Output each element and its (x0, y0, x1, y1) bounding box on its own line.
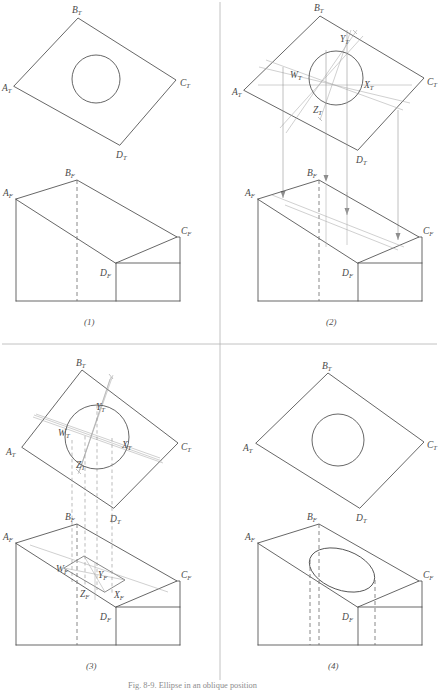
label-C-front: CF (423, 570, 434, 581)
panel-2-front-view: AF BF CF DF (244, 168, 434, 301)
label-C-top: CT (427, 440, 438, 451)
figure-plate: AT BT CT DT AF BF CF DF (1) (0, 0, 439, 691)
panel-3: AT BT CT DT WT XT YT ZT (2, 358, 192, 671)
label-C-top: CT (427, 77, 438, 88)
panel-3-top-view: AT BT CT DT WT XT YT ZT (5, 358, 192, 525)
panel-2-projectors (281, 30, 401, 240)
label-A-top: AT (231, 87, 243, 98)
front-view-right-face (419, 237, 422, 301)
panel-2-top-view: AT BT CT DT WT XT YT ZT (231, 3, 438, 166)
label-B-front: BF (65, 512, 76, 523)
front-view-top-face (16, 524, 177, 607)
panel-2: AT BT CT DT WT XT YT ZT (231, 3, 438, 327)
label-W-top: WT (290, 70, 303, 81)
front-view-right-face (177, 237, 180, 301)
top-view-construction (258, 30, 412, 133)
label-B-top: BT (76, 358, 87, 369)
quadrant-dividers (2, 2, 437, 680)
label-B-front: BF (65, 168, 76, 179)
top-view-outline (244, 16, 424, 150)
panel-4: AT BT CT DT AF BF CF DF (4) (242, 361, 438, 671)
label-D-front: DF (99, 268, 112, 279)
label-A-top: AT (1, 83, 13, 94)
top-view-outline (256, 373, 424, 508)
panel-4-front-view: AF BF CF DF (244, 512, 434, 645)
label-X-top: XT (363, 80, 375, 91)
front-view-top-face (258, 524, 419, 607)
panel-1-step-number: (1) (84, 317, 95, 327)
label-D-front: DF (341, 268, 354, 279)
label-Y-top: YT (340, 34, 350, 45)
label-D-front: DF (341, 612, 354, 623)
label-C-front: CF (423, 226, 434, 237)
label-B-top: BT (72, 5, 83, 16)
label-A-front: AF (2, 532, 14, 543)
panel-3-step-number: (3) (86, 661, 97, 671)
label-A-front: AF (2, 188, 14, 199)
top-view-circle (309, 51, 363, 105)
label-C-front: CF (181, 570, 192, 581)
label-D-top: DT (115, 150, 128, 161)
label-Y-top: YT (96, 402, 106, 413)
label-A-front: AF (244, 188, 256, 199)
label-D-top: DT (109, 514, 122, 525)
label-W-front: WF (56, 564, 69, 575)
figure-caption: Fig. 8-9. Ellipse in an oblique position (128, 681, 258, 690)
label-D-top: DT (355, 155, 368, 166)
panel-4-step-number: (4) (328, 661, 339, 671)
label-B-top: BT (322, 361, 333, 372)
label-B-front: BF (307, 512, 318, 523)
front-view-right-face (419, 581, 422, 645)
label-D-top: DT (355, 513, 368, 524)
panel-1-top-view: AT BT CT DT (1, 5, 191, 161)
top-view-circle (72, 55, 120, 103)
label-B-front: BF (307, 168, 318, 179)
label-Z-front: ZF (80, 589, 90, 600)
label-B-top: BT (314, 3, 325, 14)
label-D-front: DF (99, 612, 112, 623)
top-view-outline (14, 18, 176, 145)
panel-1: AT BT CT DT AF BF CF DF (1) (1, 5, 192, 327)
label-A-top: AT (5, 447, 17, 458)
panel-4-top-view: AT BT CT DT (242, 361, 438, 524)
label-A-top: AT (242, 443, 254, 454)
label-X-front: XF (113, 590, 125, 601)
label-C-top: CT (181, 442, 192, 453)
axis-WX (30, 545, 168, 592)
axis-WX (34, 415, 162, 461)
label-C-front: CF (181, 226, 192, 237)
front-view-top-face (16, 180, 177, 263)
label-A-front: AF (244, 532, 256, 543)
front-view-ellipse (303, 540, 381, 601)
label-Z-top: ZT (313, 105, 323, 116)
panel-2-step-number: (2) (326, 317, 337, 327)
label-X-top: XT (121, 440, 133, 451)
label-C-top: CT (180, 78, 191, 89)
axis-YZ (79, 377, 111, 472)
top-view-circle (312, 414, 364, 466)
label-Y-front: YF (98, 570, 108, 581)
front-view-right-face (177, 581, 180, 645)
top-view-construction (33, 374, 163, 474)
panel-1-front-view: AF BF CF DF (2, 168, 192, 301)
